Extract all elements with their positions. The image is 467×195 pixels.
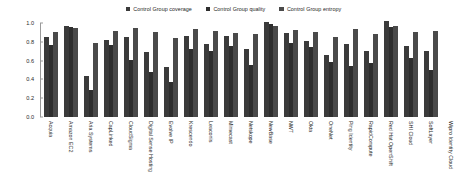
bar-group <box>321 23 341 117</box>
x-tick-label-cell: NWT <box>281 119 301 193</box>
chart-legend: Control Group coverage Control Group qua… <box>0 6 467 12</box>
y-tick-mark <box>40 41 43 42</box>
bar-group <box>281 23 301 117</box>
x-tick-label-cell: SoftLayer <box>421 119 441 193</box>
x-tick-label: RapidCompute <box>368 121 374 157</box>
legend-entry-coverage: Control Group coverage <box>126 6 192 12</box>
legend-swatch-quality <box>206 7 211 12</box>
x-tick-label-cell: Okta <box>301 119 321 193</box>
bar-group <box>201 23 221 117</box>
bar <box>373 34 377 117</box>
x-tick-label-cell: Acquia <box>41 119 61 193</box>
bar <box>433 31 437 117</box>
x-tick-label: Krescendo <box>188 121 194 147</box>
y-tick-label: 0.8 <box>26 39 34 45</box>
legend-entry-entropy: Control Group entropy <box>279 6 341 12</box>
y-tick-mark <box>40 117 43 118</box>
bar <box>393 26 397 117</box>
bar-group <box>261 23 281 117</box>
bar-group <box>161 23 181 117</box>
bar-group <box>61 23 81 117</box>
x-tick-label: Acquia <box>48 121 54 137</box>
bar <box>153 32 157 117</box>
legend-label-quality: Control Group quality <box>213 6 265 12</box>
bar <box>93 43 97 117</box>
y-tick-label: 1.0 <box>26 20 34 26</box>
x-tick-label-cell: SHI Cloud <box>401 119 421 193</box>
legend-label-entropy: Control Group entropy <box>287 6 341 12</box>
y-tick-label: 0.4 <box>26 76 34 82</box>
bar-group <box>101 23 121 117</box>
bar-group <box>241 23 261 117</box>
x-tick-label: OneNet <box>328 121 334 139</box>
y-axis-tick-labels: 1.00.80.60.40.20.0 <box>0 23 34 117</box>
y-tick-label: 0.0 <box>26 114 34 120</box>
x-tick-label: Okta <box>308 121 314 132</box>
x-tick-label: Digital Sense Hosting <box>148 121 154 172</box>
bar <box>333 37 337 117</box>
x-tick-label: NWT <box>288 121 294 133</box>
x-tick-label: Evolve IP <box>168 121 174 144</box>
x-tick-label-cell: Ping Identity <box>341 119 361 193</box>
bar-group <box>81 23 101 117</box>
bar <box>213 31 217 117</box>
x-tick-label: SHI Cloud <box>408 121 414 145</box>
x-tick-label-cell: Mimecast <box>221 119 241 193</box>
x-tick-label-cell: NewBase <box>261 119 281 193</box>
bar <box>173 38 177 117</box>
x-tick-label: Red Hat OpenShift <box>388 121 394 166</box>
bar <box>193 29 197 117</box>
y-tick-mark <box>40 23 43 24</box>
bar-group <box>301 23 321 117</box>
legend-entry-quality: Control Group quality <box>206 6 266 12</box>
x-tick-label: Aria Systems <box>88 121 94 152</box>
x-tick-label-cell: Red Hat OpenShift <box>381 119 401 193</box>
x-tick-label-cell: Digital Sense Hosting <box>141 119 161 193</box>
bar-chart: Control Group coverage Control Group qua… <box>0 0 467 195</box>
bar <box>113 31 117 117</box>
y-tick-label: 0.2 <box>26 95 34 101</box>
bar <box>273 26 277 117</box>
y-tick-mark <box>40 60 43 61</box>
bar <box>253 34 257 117</box>
x-tick-label: Amazon EC2 <box>68 121 74 152</box>
x-tick-label-cell: CloudSigma <box>121 119 141 193</box>
bar-group <box>121 23 141 117</box>
x-tick-label-cell: Aria Systems <box>81 119 101 193</box>
legend-label-coverage: Control Group coverage <box>133 6 192 12</box>
y-tick-mark <box>40 79 43 80</box>
legend-swatch-entropy <box>279 7 284 12</box>
x-tick-label-cell: CapLinked <box>101 119 121 193</box>
x-tick-label: Netskope <box>248 121 254 144</box>
x-tick-label-cell: Evolve IP <box>161 119 181 193</box>
x-tick-label-cell: OneNet <box>321 119 341 193</box>
bar <box>293 30 297 117</box>
bar-group <box>401 23 421 117</box>
bar-group <box>141 23 161 117</box>
bar-group <box>361 23 381 117</box>
legend-swatch-coverage <box>126 7 131 12</box>
x-tick-label-cell: Amazon EC2 <box>61 119 81 193</box>
x-tick-label-cell: Netskope <box>241 119 261 193</box>
bar <box>133 28 137 117</box>
bar <box>413 32 417 117</box>
bar <box>313 32 317 117</box>
y-tick-mark <box>40 98 43 99</box>
bar-group <box>341 23 361 117</box>
x-tick-label: Ping Identity <box>348 121 354 150</box>
x-tick-label: CapLinked <box>108 121 114 147</box>
bar-group <box>41 23 61 117</box>
x-tick-label: Mimecast <box>228 121 234 144</box>
bar-group <box>381 23 401 117</box>
x-tick-label-cell: Leaconis <box>201 119 221 193</box>
x-tick-label-cell: Wipro Identity Cloud <box>441 119 461 193</box>
bar-group <box>181 23 201 117</box>
x-axis-tick-labels: AcquiaAmazon EC2Aria SystemsCapLinkedClo… <box>41 119 461 193</box>
bar-group <box>441 23 461 117</box>
bar <box>53 32 57 117</box>
x-tick-label-cell: Krescendo <box>181 119 201 193</box>
bar-groups <box>41 23 461 117</box>
x-tick-label: Leaconis <box>208 121 214 142</box>
x-tick-label-cell: RapidCompute <box>361 119 381 193</box>
x-tick-label: CloudSigma <box>128 121 134 150</box>
